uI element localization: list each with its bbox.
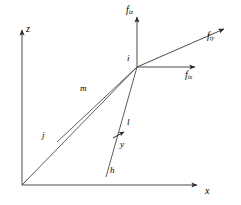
force-fiy-subscript: iy [210, 34, 214, 41]
diagram-svg [0, 0, 241, 205]
force-fix-label: fix [185, 70, 192, 80]
force-fiy-label: fiy [207, 31, 214, 41]
node-h-label: h [110, 166, 115, 175]
node-i-label: i [127, 54, 130, 63]
node-j-label: j [42, 131, 45, 140]
x-axis-label: x [205, 186, 209, 196]
figure-canvas: z x fiz fiy fix i j h y l m [0, 0, 241, 205]
node-l-label: l [127, 118, 130, 127]
z-axis-label: z [26, 24, 30, 34]
member-m-line [57, 67, 137, 142]
local-y-label: y [120, 140, 124, 149]
member-m-label: m [80, 84, 87, 93]
force-fiz-subscript: iz [129, 8, 133, 15]
force-fix-subscript: ix [188, 73, 192, 80]
force-fiz-label: fiz [126, 5, 133, 15]
